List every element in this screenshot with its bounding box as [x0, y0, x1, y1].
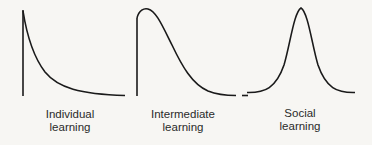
label-line-1: Individual — [20, 108, 120, 121]
learning-distributions-figure: Individual learning Intermediate learnin… — [0, 0, 372, 145]
label-line-2: learning — [250, 120, 350, 133]
label-line-1: Social — [250, 107, 350, 120]
individual-learning-curve — [23, 10, 125, 96]
social-learning-curve — [247, 8, 355, 93]
intermediate-learning-curve — [137, 9, 248, 96]
label-intermediate-learning: Intermediate learning — [133, 108, 233, 134]
label-line-2: learning — [20, 121, 120, 134]
label-line-2: learning — [133, 121, 233, 134]
label-social-learning: Social learning — [250, 107, 350, 133]
label-individual-learning: Individual learning — [20, 108, 120, 134]
label-line-1: Intermediate — [133, 108, 233, 121]
